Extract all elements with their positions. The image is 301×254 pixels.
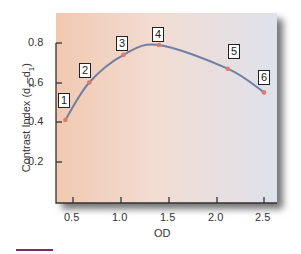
x-tick-label: 2.0 xyxy=(208,211,223,223)
point-label-1: 1 xyxy=(58,93,70,108)
data-point-marker xyxy=(63,118,68,123)
data-point-marker xyxy=(87,80,92,85)
x-tick-label: 1.0 xyxy=(112,211,127,223)
figure-rule xyxy=(16,249,53,251)
data-point-marker xyxy=(157,43,162,48)
point-label-2: 2 xyxy=(79,63,91,78)
point-label-5: 5 xyxy=(228,44,240,59)
point-label-3: 3 xyxy=(116,36,128,51)
y-axis-label: Contrast Index (d2–d1) xyxy=(20,58,35,178)
x-tick-label: 0.5 xyxy=(64,211,79,223)
data-point-marker xyxy=(262,90,267,95)
x-tick-label: 2.5 xyxy=(255,211,270,223)
point-label-6: 6 xyxy=(258,70,270,85)
x-axis-label: OD xyxy=(154,227,171,239)
data-point-marker xyxy=(225,66,230,71)
x-tick-label: 1.5 xyxy=(160,211,175,223)
x-ticks xyxy=(73,197,264,203)
point-label-4: 4 xyxy=(152,27,164,42)
data-point-marker xyxy=(121,53,126,58)
y-tick-label: 0.8 xyxy=(28,36,43,48)
